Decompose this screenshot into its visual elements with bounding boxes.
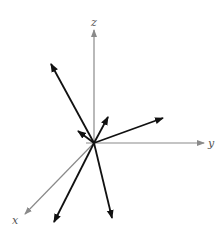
3d-vector-diagram: z y x	[0, 0, 222, 239]
x-axis-label: x	[12, 214, 19, 227]
vector-down-left	[54, 143, 94, 222]
x-axis	[25, 143, 94, 214]
vector-right	[94, 118, 163, 143]
axes: z y x	[12, 16, 215, 227]
y-axis-label: y	[207, 137, 215, 150]
z-axis-label: z	[90, 16, 97, 29]
vector-down	[94, 143, 112, 218]
vector-up-left	[51, 64, 94, 143]
